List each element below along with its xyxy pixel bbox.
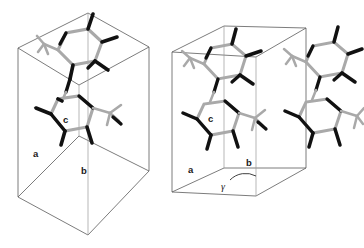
cell-top-face-right [172,26,306,57]
inter-ring-link-r2 [316,77,320,90]
unit-cell-view-right: a b c γ [160,0,364,248]
left-molecule-upper [37,14,117,101]
axis-label-b-right: b [246,157,252,168]
right-cell-svg: a b c γ [160,0,364,248]
left-cell-svg: a b c [0,0,170,248]
methyl-group-upper [37,36,58,54]
right-molecule-1-upper [182,29,261,102]
axis-label-c-left: c [63,114,68,125]
cell-top-face [18,13,149,85]
substituent-bonds-upper [70,14,117,79]
crystal-packing-figure: a b c [0,0,364,248]
methyl-group-r2l [341,108,364,128]
axis-label-gamma-right: γ [221,181,226,192]
left-molecule-lower [36,96,121,145]
axis-label-a-right: a [188,164,194,175]
left-unit-cell-box [18,13,149,235]
right-molecule-2-upper [284,27,362,100]
axis-label-c-right: c [208,113,213,124]
right-molecule-2-lower [285,99,364,147]
unit-cell-view-left: a b c [0,0,170,248]
inter-ring-link-r1 [214,79,218,92]
inter-ring-link-light-r1 [210,92,214,102]
right-molecule-1-lower [183,101,266,149]
axis-label-b-left: b [81,165,87,176]
axis-label-a-left: a [33,148,39,159]
methyl-group-r2u [284,49,306,66]
inter-ring-link-light-r2 [312,90,316,100]
gamma-angle-arc [230,173,256,180]
methyl-bond-dark-r1l [258,122,266,129]
inter-ring-link-upper [66,79,70,92]
methyl-group-r1l [239,110,265,130]
